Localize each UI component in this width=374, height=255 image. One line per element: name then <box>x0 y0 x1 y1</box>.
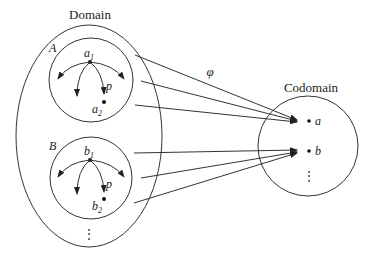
point-b1-label: b1 <box>84 144 94 160</box>
edge-p-a: p <box>105 79 112 93</box>
codomain-label: Codomain <box>284 80 339 95</box>
codomain-point-a <box>307 119 311 123</box>
map-phi-label: φ <box>206 64 213 79</box>
point-b2-label: b2 <box>92 199 102 215</box>
point-a2 <box>102 100 106 104</box>
subset-b-label: B <box>49 139 57 153</box>
domain-label: Domain <box>69 7 111 22</box>
subset-a: A a1 p a2 <box>48 38 133 122</box>
domain-ellipsis: ⋮ <box>83 227 95 241</box>
subset-a-label: A <box>48 41 57 55</box>
subset-b: B b1 p b2 <box>49 137 132 219</box>
codomain-point-b <box>307 149 311 153</box>
category-diagram: Domain A a1 p a2 B b1 p b2 ⋮ φ <box>0 0 374 255</box>
codomain-point-a-label: a <box>315 114 321 128</box>
codomain-ellipsis: ⋮ <box>303 169 315 183</box>
edge-p-b: p <box>105 177 112 191</box>
point-b2 <box>102 197 106 201</box>
point-a2-label: a2 <box>92 102 102 118</box>
codomain-point-b-label: b <box>315 144 321 158</box>
point-a1-label: a1 <box>84 46 94 62</box>
